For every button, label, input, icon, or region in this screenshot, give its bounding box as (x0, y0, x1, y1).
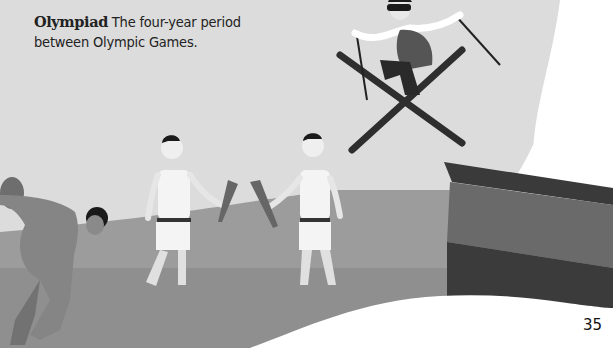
olympics-illustration (0, 0, 613, 348)
glossary-definition: Olympiad The four-year period between Ol… (34, 12, 264, 52)
glossary-term: Olympiad (34, 13, 108, 30)
page-number: 35 (583, 316, 602, 334)
